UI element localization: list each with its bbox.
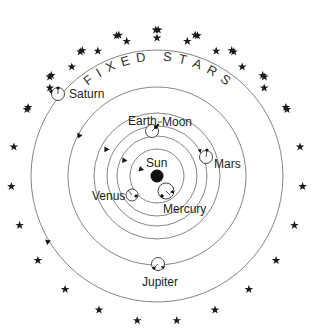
jupiter-label: Jupiter [142, 275, 178, 289]
mars-body [197, 148, 213, 164]
mercury-body [158, 183, 175, 199]
mercury-icon [160, 194, 164, 198]
star-icon [183, 37, 192, 45]
star-icon [238, 62, 247, 70]
star-icon [298, 182, 307, 190]
star-icon [173, 316, 182, 324]
sun-icon [151, 170, 164, 183]
venus-label: Venus [92, 189, 125, 203]
star-icon [34, 256, 43, 264]
star-icon [94, 47, 103, 55]
star-icon [153, 34, 162, 42]
mars-label: Mars [214, 157, 241, 171]
venus-icon [134, 194, 137, 197]
venus-body [126, 189, 138, 201]
earth-label: Earth [128, 114, 157, 128]
fixed-stars-title: F I X E D S T A R S [80, 49, 234, 89]
star-icon [68, 62, 77, 70]
sun-label: Sun [146, 156, 167, 170]
geocentric-tychonic-diagram: F I X E D S T A R S Sun Mercury Venus [0, 0, 311, 335]
star-icon [272, 256, 281, 264]
mars-arrow-icon [102, 146, 110, 153]
sun-arrow-icon [136, 166, 144, 174]
star-icon [95, 306, 104, 314]
mercury-label: Mercury [163, 202, 206, 216]
star-icon [211, 306, 220, 314]
moon-icon [157, 124, 159, 126]
star-icon [290, 221, 299, 229]
star-icon [15, 221, 24, 229]
star-icon [260, 84, 269, 92]
star-icon [212, 47, 221, 55]
saturn-label: Saturn [69, 87, 104, 101]
star-icon [133, 316, 142, 324]
star-icon [61, 285, 70, 293]
star-icon [122, 37, 131, 45]
star-icon [245, 285, 254, 293]
fixed-stars-title-path: F I X E D S T A R S [80, 49, 234, 89]
star-icon [296, 142, 305, 150]
jupiter-body [152, 258, 167, 271]
star-icon [10, 142, 19, 150]
star-icon [7, 182, 16, 190]
moon-label: Moon [162, 115, 192, 129]
